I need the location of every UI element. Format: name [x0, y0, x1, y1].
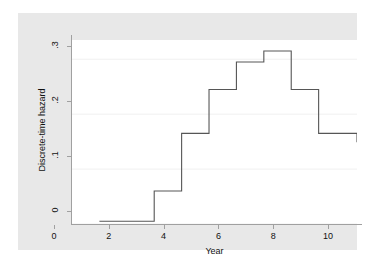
x-tick-label-2: 4 — [152, 231, 176, 241]
x-tick-3 — [218, 225, 219, 229]
y-tick-label-0: 0 — [50, 200, 60, 220]
y-tick-0 — [67, 211, 71, 212]
graph-region: 0.1.2.3 0246810 Discrete-time hazard Yea… — [18, 13, 357, 250]
y-tick-2 — [67, 101, 71, 102]
x-tick-label-3: 6 — [206, 231, 230, 241]
x-tick-label-5: 10 — [316, 231, 340, 241]
x-tick-2 — [164, 225, 165, 229]
x-tick-label-4: 8 — [261, 231, 285, 241]
y-tick-1 — [67, 156, 71, 157]
x-tick-5 — [328, 225, 329, 229]
chart-canvas: 0.1.2.3 0246810 Discrete-time hazard Yea… — [0, 0, 375, 263]
y-tick-label-2: .2 — [50, 90, 60, 110]
y-tick-3 — [67, 46, 71, 47]
x-tick-label-0: 0 — [42, 231, 66, 241]
gridlines-group — [72, 59, 357, 224]
x-tick-1 — [109, 225, 110, 229]
y-axis-line — [71, 35, 72, 225]
y-tick-label-3: .3 — [50, 35, 60, 55]
x-tick-0 — [54, 225, 55, 229]
x-axis-title: Year — [72, 246, 357, 256]
y-axis-title: Discrete-time hazard — [37, 80, 47, 180]
x-axis-line — [71, 224, 362, 225]
plot-area — [72, 40, 357, 224]
y-tick-label-1: .1 — [50, 145, 60, 165]
hazard-step-line — [99, 51, 357, 221]
x-tick-label-1: 2 — [97, 231, 121, 241]
step-plot-svg — [72, 40, 357, 224]
x-tick-4 — [273, 225, 274, 229]
